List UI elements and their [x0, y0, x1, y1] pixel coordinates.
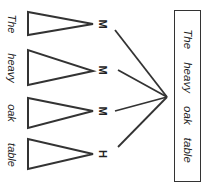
word-label-the: The: [6, 15, 18, 34]
triangle-the: [28, 12, 93, 35]
branch-line-heavy: [118, 70, 167, 97]
sentence-text: The heavy oak table: [182, 29, 194, 163]
branch-line-the: [115, 30, 167, 97]
triangle-heavy: [28, 50, 93, 85]
triangle-table: [28, 139, 93, 169]
triangle-oak: [28, 98, 93, 128]
tag-letter-table: H: [97, 150, 109, 158]
tag-letter-heavy: M: [97, 65, 109, 74]
tag-letter-the: M: [97, 19, 109, 28]
word-label-table: table: [6, 143, 18, 167]
tag-letter-oak: M: [97, 106, 109, 115]
word-label-heavy: heavy: [6, 53, 18, 82]
word-label-oak: oak: [6, 104, 18, 122]
sentence-box: The heavy oak table: [174, 10, 201, 182]
diagram-stage: The heavy oak table M M M H The heavy oa…: [0, 0, 210, 193]
